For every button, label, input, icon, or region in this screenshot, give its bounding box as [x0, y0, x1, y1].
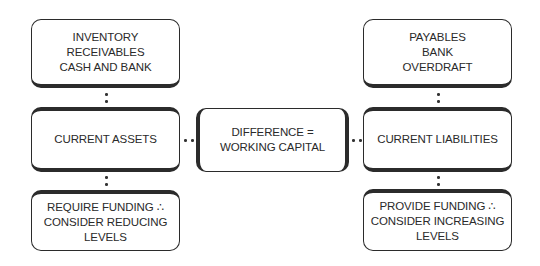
connector-dot: [352, 139, 355, 142]
connector-dot: [184, 139, 187, 142]
current-assets-box: CURRENT ASSETS: [31, 107, 180, 172]
connector-dot: [105, 93, 108, 96]
connector-dot: [105, 176, 108, 179]
current-liabilities-components-box: PAYABLES BANK OVERDRAFT: [363, 19, 512, 88]
connector-dot: [437, 100, 440, 103]
require-funding-box: REQUIRE FUNDING ∴ CONSIDER REDUCING LEVE…: [31, 190, 180, 251]
connector-dot: [105, 100, 108, 103]
provide-funding-box: PROVIDE FUNDING ∴ CONSIDER INCREASING LE…: [363, 189, 512, 251]
connector-dot: [437, 93, 440, 96]
working-capital-label: DIFFERENCE = WORKING CAPITAL: [216, 125, 329, 155]
current-liabilities-box: CURRENT LIABILITIES: [363, 107, 512, 172]
connector-dot: [191, 139, 194, 142]
current-liabilities-components-label: PAYABLES BANK OVERDRAFT: [398, 30, 476, 75]
current-liabilities-label: CURRENT LIABILITIES: [373, 132, 502, 147]
provide-funding-label: PROVIDE FUNDING ∴ CONSIDER INCREASING LE…: [367, 199, 509, 244]
connector-dot: [105, 183, 108, 186]
connector-dot: [359, 139, 362, 142]
connector-dot: [437, 176, 440, 179]
connector-dot: [437, 183, 440, 186]
current-assets-label: CURRENT ASSETS: [50, 132, 161, 147]
current-assets-components-label: INVENTORY RECEIVABLES CASH AND BANK: [32, 30, 179, 75]
current-assets-components-box: INVENTORY RECEIVABLES CASH AND BANK: [31, 19, 180, 88]
require-funding-label: REQUIRE FUNDING ∴ CONSIDER REDUCING LEVE…: [40, 200, 172, 245]
working-capital-box: DIFFERENCE = WORKING CAPITAL: [196, 108, 349, 172]
